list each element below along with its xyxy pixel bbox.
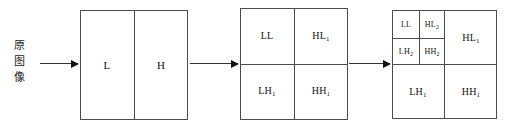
stage2-cell-HL1-text: HL	[312, 30, 326, 41]
stage3-cell-LH2-text: LH	[399, 47, 410, 56]
stage3-cell-HL2-text: HL	[425, 20, 436, 29]
stage3-cell-HH1: HH1	[462, 86, 481, 97]
stage2-cell-LH1-text: LH	[258, 85, 272, 96]
stage3-cell-LH2-sub: 2	[410, 51, 413, 57]
source-image-label: 原图像	[10, 38, 28, 86]
stage3-horizontal-divider	[393, 64, 496, 65]
stage3-cell-HL1: HL1	[462, 32, 479, 43]
stage1-cell-H: H	[157, 59, 165, 71]
stage3-cell-HH2-sub: 2	[436, 51, 439, 57]
stage2-box	[240, 8, 348, 120]
stage3-cell-LH1-text: LH	[409, 86, 423, 97]
stage3-cell-HL2: HL2	[425, 20, 439, 29]
stage3-cell-LH1-sub: 1	[423, 91, 427, 99]
stage1-cell-L: L	[104, 59, 111, 71]
stage3-cell-HH2: HH2	[424, 47, 439, 56]
stage3-cell-LH2: LH2	[399, 47, 413, 56]
stage2-horizontal-divider	[241, 64, 347, 65]
stage3-cell-LH1: LH1	[409, 86, 426, 97]
stage2-cell-LH1: LH1	[258, 85, 275, 96]
stage2-cell-HH1-sub: 1	[327, 90, 331, 98]
stage3-cell-HL2-sub: 2	[436, 24, 439, 30]
arrow-stage2-to-stage3	[349, 63, 390, 64]
stage1-box	[80, 10, 188, 120]
stage2-cell-HL1: HL1	[312, 30, 329, 41]
stage2-cell-LL-text: LL	[261, 30, 274, 41]
arrow-source-to-stage1	[40, 63, 78, 64]
stage3-cell-LL: LL	[401, 20, 411, 29]
stage3-cell-HH2-text: HH	[424, 47, 436, 56]
stage3-cell-HH1-sub: 1	[477, 91, 481, 99]
stage1-cell-H-text: H	[157, 59, 165, 71]
stage3-cell-LL-text: LL	[401, 20, 411, 29]
stage2-cell-HH1-text: HH	[312, 85, 327, 96]
stage3-cell-HH1-text: HH	[462, 86, 477, 97]
stage3-nested-horizontal-divider	[393, 38, 444, 39]
stage3-cell-HL1-sub: 1	[476, 37, 480, 45]
diagram-canvas: 原图像 L H LL HL1 LH1 HH1 LL HL2	[0, 0, 513, 130]
arrow-stage1-to-stage2	[190, 63, 238, 64]
stage2-cell-HL1-sub: 1	[326, 35, 330, 43]
stage2-cell-LH1-sub: 1	[272, 90, 276, 98]
stage2-cell-HH1: HH1	[312, 85, 331, 96]
stage1-vertical-divider	[134, 11, 135, 119]
stage1-cell-L-text: L	[104, 59, 111, 71]
stage3-cell-HL1-text: HL	[462, 32, 476, 43]
stage2-cell-LL: LL	[261, 30, 274, 41]
